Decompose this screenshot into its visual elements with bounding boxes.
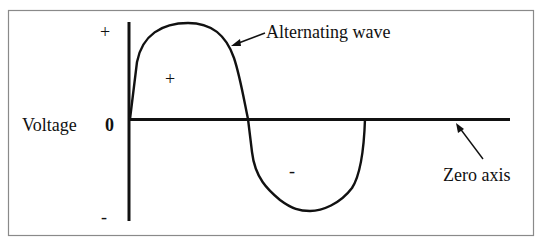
axis-bottom-minus: -	[101, 207, 107, 227]
zero-axis-pointer-line	[459, 127, 483, 159]
axis-top-plus: +	[100, 22, 110, 42]
zero-axis-label: Zero axis	[443, 165, 510, 185]
alternating-wave-curve	[130, 23, 365, 211]
alternating-wave-diagram: + - Voltage 0 + - Alternating wave Zero …	[0, 0, 538, 243]
zero-label: 0	[105, 115, 114, 135]
voltage-label: Voltage	[22, 115, 77, 135]
diagram-frame	[9, 11, 534, 236]
positive-half-label: +	[165, 69, 175, 89]
wave-pointer-arrowhead-icon	[231, 39, 241, 46]
negative-half-label: -	[289, 161, 295, 181]
wave-label: Alternating wave	[266, 22, 390, 42]
